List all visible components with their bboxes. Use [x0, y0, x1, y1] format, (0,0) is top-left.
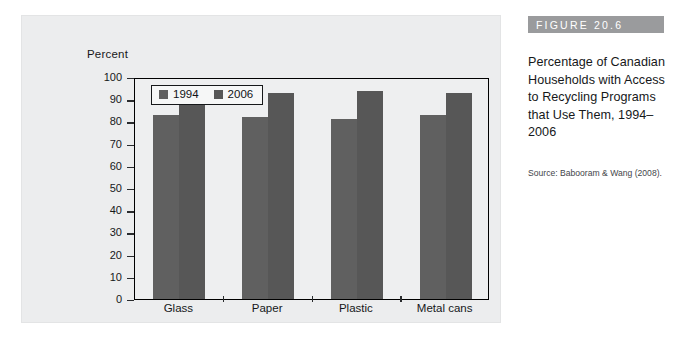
bar-group [242, 79, 294, 299]
y-tick-label: 20 [110, 249, 122, 261]
x-axis-label-glass: Glass [164, 302, 193, 314]
y-tick-mark [127, 100, 134, 101]
y-tick-label: 0 [116, 293, 122, 305]
y-tick-label: 10 [110, 271, 122, 283]
chart-legend: 1994 2006 [151, 85, 263, 105]
y-tick-label: 100 [104, 71, 122, 83]
y-tick-label: 70 [110, 138, 122, 150]
x-axis-label-plastic: Plastic [339, 302, 373, 314]
figure-number-banner: FIGURE 20.6 [528, 16, 664, 33]
legend-swatch-1994 [159, 90, 168, 99]
y-tick-label: 90 [110, 93, 122, 105]
x-axis-label-metal-cans: Metal cans [417, 302, 473, 314]
bar-1994-paper [242, 117, 268, 299]
bar-series-container [135, 79, 488, 299]
x-tick-mark [400, 296, 401, 302]
figure-caption: Percentage of Canadian Households with A… [528, 54, 668, 142]
bar-2006-glass [179, 93, 205, 299]
bar-2006-plastic [357, 91, 383, 299]
bar-group [331, 79, 383, 299]
bar-group [420, 79, 472, 299]
y-tick-mark [127, 78, 134, 79]
x-tick-mark [312, 296, 313, 302]
y-tick-label: 50 [110, 182, 122, 194]
y-tick-mark [127, 300, 134, 301]
legend-item-1994: 1994 [159, 89, 199, 101]
y-axis: 0102030405060708090100 [22, 16, 134, 322]
bar-2006-metal-cans [446, 93, 472, 299]
legend-label-2006: 2006 [228, 89, 254, 101]
legend-label-1994: 1994 [173, 89, 199, 101]
y-tick-label: 40 [110, 204, 122, 216]
y-tick-mark [127, 211, 134, 212]
y-tick-mark [127, 256, 134, 257]
y-tick-mark [127, 145, 134, 146]
figure-number-label: FIGURE 20.6 [528, 19, 623, 31]
legend-swatch-2006 [214, 90, 223, 99]
figure-source: Source: Babooram & Wang (2008). [528, 168, 666, 180]
chart-card: Percent 0102030405060708090100 1994 2006 [22, 16, 500, 322]
x-axis-label-paper: Paper [252, 302, 283, 314]
y-tick-label: 80 [110, 115, 122, 127]
bar-group [153, 79, 205, 299]
y-tick-label: 60 [110, 160, 122, 172]
x-axis-labels: GlassPaperPlasticMetal cans [134, 302, 489, 324]
plot-area: 1994 2006 [134, 78, 489, 300]
caption-panel: FIGURE 20.6 Percentage of Canadian House… [528, 16, 664, 322]
y-tick-mark [127, 167, 134, 168]
bar-1994-glass [153, 115, 179, 299]
y-tick-label: 30 [110, 226, 122, 238]
y-tick-mark [127, 278, 134, 279]
x-tick-mark [223, 296, 224, 302]
y-tick-mark [127, 122, 134, 123]
figure-screenshot: Percent 0102030405060708090100 1994 2006 [0, 0, 684, 342]
bar-1994-metal-cans [420, 115, 446, 299]
y-tick-mark [127, 189, 134, 190]
bar-1994-plastic [331, 119, 357, 299]
y-tick-mark [127, 233, 134, 234]
bar-2006-paper [268, 93, 294, 299]
legend-item-2006: 2006 [214, 89, 254, 101]
